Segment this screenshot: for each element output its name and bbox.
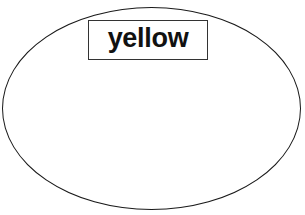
category-label-box: yellow — [88, 20, 208, 60]
category-label: yellow — [108, 25, 189, 52]
